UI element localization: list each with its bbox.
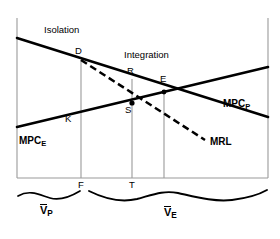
region-label-isolation: Isolation bbox=[44, 25, 79, 35]
axis-tick-label-t: T bbox=[129, 180, 135, 190]
economics-diagram: Isolation Integration D R E S K MPCP MPC… bbox=[0, 0, 280, 239]
axis-tick-label-f: F bbox=[78, 180, 84, 190]
curve-mrl bbox=[81, 60, 205, 140]
point-label-s: S bbox=[125, 105, 131, 115]
brace-label-v-p: VP bbox=[40, 204, 53, 218]
point-label-d: D bbox=[75, 46, 82, 56]
curve-label-mpc-e: MPCE bbox=[19, 136, 46, 147]
curve-label-mpc-p: MPCP bbox=[223, 99, 250, 110]
region-label-integration: Integration bbox=[124, 50, 169, 60]
point-label-r: R bbox=[127, 66, 134, 76]
point-label-e: E bbox=[160, 74, 166, 84]
curve-label-mpc-p-main: MPC bbox=[223, 98, 245, 109]
brace-label-v-e: VE bbox=[164, 206, 177, 220]
curve-mpc-e bbox=[17, 67, 268, 127]
curve-label-mpc-p-sub: P bbox=[245, 102, 250, 111]
vertical-reference-lines bbox=[81, 60, 164, 178]
curve-label-mpc-e-main: MPC bbox=[19, 135, 41, 146]
brace-v-e bbox=[89, 190, 267, 201]
curve-label-mpc-e-sub: E bbox=[41, 139, 46, 148]
point-label-k: K bbox=[65, 114, 71, 124]
brace-v-p bbox=[18, 191, 80, 199]
brace-label-v-p-sub: P bbox=[47, 209, 53, 218]
point-marker-e bbox=[162, 90, 167, 95]
curve-label-mrl: MRL bbox=[210, 137, 232, 147]
brace-label-v-e-sub: E bbox=[171, 211, 177, 220]
